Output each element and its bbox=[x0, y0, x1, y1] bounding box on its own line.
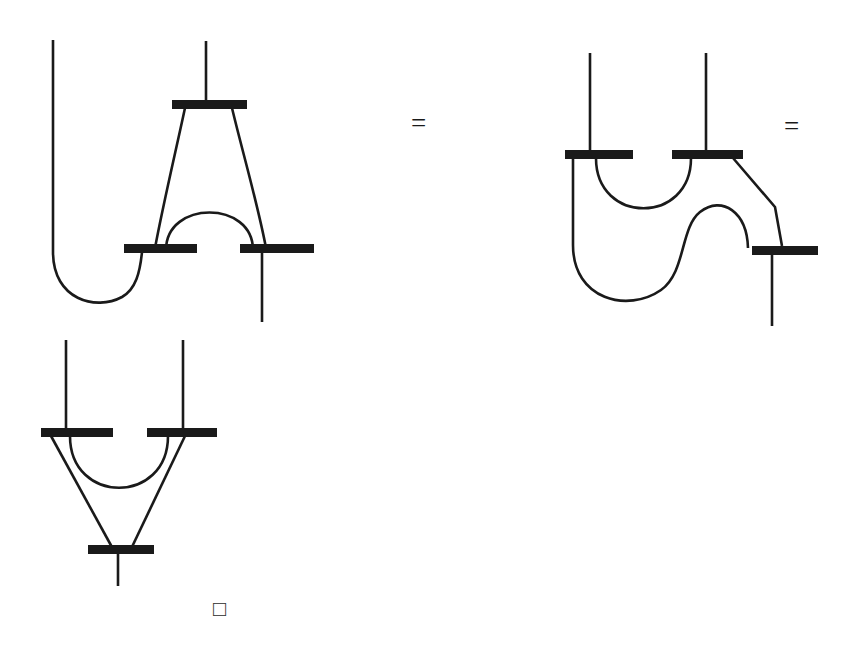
bar-top-left bbox=[565, 150, 633, 159]
bar-top bbox=[172, 100, 247, 109]
diagram-second-row bbox=[41, 340, 217, 586]
bar-top-right bbox=[147, 428, 217, 437]
equals-sign-second: = bbox=[784, 113, 799, 140]
diagram-lhs bbox=[53, 40, 314, 322]
qed-square-symbol: □ bbox=[213, 598, 226, 620]
bar-bottom-right bbox=[240, 244, 314, 253]
wire-right-diagonal bbox=[232, 108, 266, 248]
bar-bottom-right bbox=[752, 246, 818, 255]
bar-bottom-left bbox=[124, 244, 197, 253]
wire-left-diagonal bbox=[51, 436, 113, 549]
diagram-rhs bbox=[565, 53, 818, 326]
bar-bottom bbox=[88, 545, 154, 554]
string-diagram-svg bbox=[0, 0, 847, 645]
bar-top-right bbox=[672, 150, 743, 159]
wire-right-diagonal bbox=[733, 158, 782, 246]
equals-sign-first: = bbox=[411, 110, 426, 137]
wire-inner-cup bbox=[70, 436, 168, 488]
wire-left-cap bbox=[596, 158, 691, 208]
wire-left-diagonal bbox=[155, 108, 185, 248]
bar-top-left bbox=[41, 428, 113, 437]
wire-left-outer-u bbox=[53, 40, 142, 303]
wire-right-diagonal bbox=[131, 436, 185, 549]
figure-canvas: = = □ bbox=[0, 0, 847, 645]
